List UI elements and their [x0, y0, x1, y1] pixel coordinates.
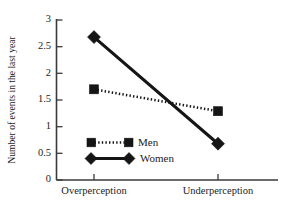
legend-marker-men-left: [87, 138, 96, 147]
y-tick-label-2: 2: [46, 67, 51, 78]
y-axis-title: Number of events in the last year: [6, 36, 17, 164]
legend-label-men: Men: [138, 136, 159, 148]
x-tick-label-overperception: Overperception: [61, 185, 127, 196]
chart-legend: Men Women: [85, 136, 174, 165]
series-line-men: [94, 89, 218, 111]
data-point-men-overperception: [90, 85, 99, 94]
series-line-women: [94, 37, 218, 144]
legend-marker-women-left: [85, 153, 97, 165]
y-tick-label-0-5: 0.5: [38, 147, 51, 158]
y-tick-label-0: 0: [46, 173, 51, 184]
y-tick-label-1: 1: [46, 120, 51, 131]
x-tick-label-underperception: Underperception: [183, 185, 254, 196]
legend-label-women: Women: [140, 152, 174, 164]
legend-marker-women-right: [123, 153, 135, 165]
y-tick-label-2-5: 2.5: [38, 40, 51, 51]
y-tick-label-1-5: 1.5: [38, 93, 51, 104]
legend-marker-men-right: [124, 138, 133, 147]
chart-canvas: Number of events in the last year 0 0.5 …: [0, 0, 287, 206]
y-tick-label-3: 3: [46, 13, 51, 24]
data-point-men-underperception: [214, 107, 223, 116]
line-chart: Number of events in the last year 0 0.5 …: [0, 0, 287, 206]
